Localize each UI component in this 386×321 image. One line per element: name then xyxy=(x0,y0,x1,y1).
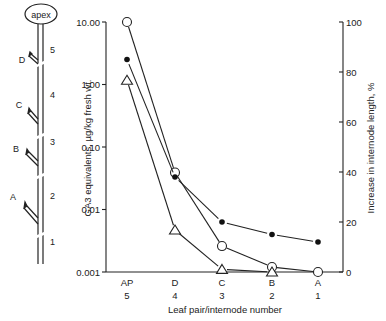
left-tick-label: 10.00 xyxy=(76,17,100,28)
x-axis: AP5D4C3B2A1 xyxy=(121,277,322,301)
leaf-label-D: D xyxy=(19,55,26,65)
internode-label-2: 2 xyxy=(50,191,55,201)
right-tick-label: 20 xyxy=(346,217,357,228)
filled-circle-marker xyxy=(269,232,275,238)
leaf-B xyxy=(26,149,38,166)
leaf-label-C: C xyxy=(16,100,23,110)
filled-circle-marker xyxy=(219,219,225,225)
plot-frame xyxy=(106,22,343,272)
filled-circle-marker xyxy=(315,239,321,245)
filled-circle-marker xyxy=(172,174,178,180)
x-axis-label: Leaf pair/internode number xyxy=(168,304,282,315)
right-axis: 100806040200 xyxy=(339,17,362,278)
leaf-D xyxy=(29,52,38,64)
x-tick-leaf: B xyxy=(269,277,275,288)
open-circle-marker xyxy=(218,242,227,251)
leaf-label-A: A xyxy=(10,192,16,202)
y-axis-label-right: Increase in internode length, % xyxy=(365,82,376,214)
right-tick-label: 60 xyxy=(346,117,357,128)
right-tick-label: 80 xyxy=(346,67,357,78)
x-tick-internode: 1 xyxy=(315,290,320,301)
x-tick-leaf: C xyxy=(219,277,226,288)
right-tick-label: 40 xyxy=(346,167,357,178)
leaf-A xyxy=(24,202,38,224)
open-circle-marker xyxy=(123,18,132,27)
x-tick-leaf: AP xyxy=(121,277,134,288)
x-tick-internode: 3 xyxy=(219,290,224,301)
y-axis-label-left: GA3 equivalents, µg/kg fresh wt. xyxy=(82,80,93,217)
x-tick-internode: 5 xyxy=(124,290,129,301)
right-tick-label: 100 xyxy=(346,17,362,28)
internode-label-1: 1 xyxy=(50,237,55,247)
triangle-marker xyxy=(122,75,133,84)
left-tick-label: 0.001 xyxy=(76,267,100,278)
x-tick-leaf: A xyxy=(315,277,322,288)
series-layer xyxy=(122,18,323,277)
leaf-C xyxy=(28,108,38,124)
plant-diagram xyxy=(24,4,57,264)
internode-label-3: 3 xyxy=(50,137,55,147)
x-tick-leaf: D xyxy=(172,277,179,288)
internode-label-4: 4 xyxy=(50,90,55,100)
figure: apex D C B A 5 4 3 2 1 10.001.000.100.01… xyxy=(0,0,386,321)
internode-label-5: 5 xyxy=(50,45,55,55)
x-tick-internode: 2 xyxy=(269,290,274,301)
triangle-marker xyxy=(170,225,181,234)
right-tick-label: 0 xyxy=(346,267,351,278)
open-circle-marker xyxy=(314,268,323,277)
filled-circle-marker xyxy=(124,57,130,63)
apex-label: apex xyxy=(31,10,51,20)
leaf-label-B: B xyxy=(13,144,19,154)
x-tick-internode: 4 xyxy=(172,290,177,301)
